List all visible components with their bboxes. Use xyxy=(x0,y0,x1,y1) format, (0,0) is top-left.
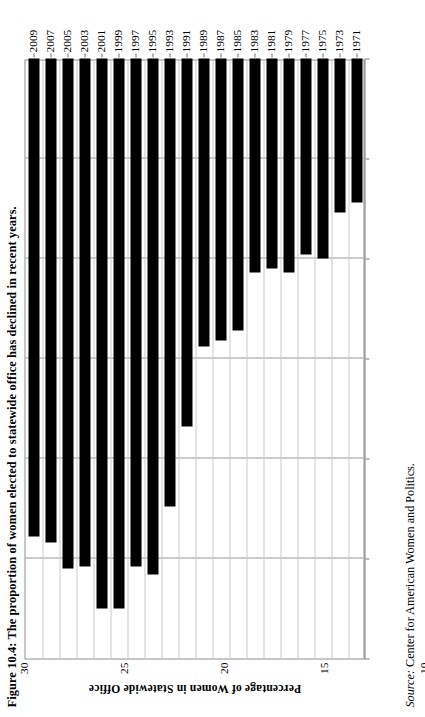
category-axis-tickmark xyxy=(186,53,187,57)
value-axis-tickmark xyxy=(365,158,369,159)
category-axis-tick-label: 1979 xyxy=(282,29,293,52)
figure-source: Source: Center for American Women and Po… xyxy=(402,7,417,707)
gridline-horizontal xyxy=(93,60,94,658)
value-axis-tickmark xyxy=(365,358,369,359)
category-axis-tickmark xyxy=(50,53,51,57)
category-axis-tickmark xyxy=(220,53,221,57)
gridline-horizontal xyxy=(42,60,43,658)
bar xyxy=(45,58,55,542)
value-axis-tickmark xyxy=(365,58,369,59)
bar xyxy=(300,58,310,254)
category-axis-tick-label: 2005 xyxy=(61,29,72,52)
bar xyxy=(28,58,38,536)
category-axis-tickmark xyxy=(305,53,306,57)
gridline-horizontal xyxy=(297,60,298,658)
value-axis-tick-label: 15 xyxy=(318,662,329,680)
bar xyxy=(79,58,89,566)
gridline-horizontal xyxy=(195,60,196,658)
category-axis-tickmark xyxy=(322,53,323,57)
gridline-horizontal xyxy=(127,60,128,658)
gridline-horizontal xyxy=(110,60,111,658)
bar xyxy=(351,58,361,202)
category-axis-tick-label: 1973 xyxy=(333,29,344,52)
category-axis-tick-label: 1975 xyxy=(316,29,327,52)
gridline-horizontal xyxy=(212,60,213,658)
category-axis-ticks: 2009200720052003200119991997199519931991… xyxy=(24,23,364,57)
gridline-horizontal xyxy=(280,60,281,658)
bar xyxy=(317,58,327,258)
category-axis-tick-label: 1999 xyxy=(112,29,123,52)
category-axis-tick-label: 1977 xyxy=(299,29,310,52)
bar xyxy=(215,58,225,340)
category-axis-tick-label: 2009 xyxy=(27,29,38,52)
category-axis-tick-label: 2001 xyxy=(95,29,106,52)
chart-plot-area: Percentage of Women in Statewide Office … xyxy=(24,23,394,695)
gridline-horizontal xyxy=(246,60,247,658)
category-axis-tickmark xyxy=(356,53,357,57)
value-axis-ticks: 051015202530 xyxy=(24,661,364,679)
figure-source-prefix: Source: xyxy=(402,670,416,707)
value-axis-tickmark xyxy=(365,658,369,659)
category-axis-tick-label: 1981 xyxy=(265,29,276,52)
category-axis-tickmark xyxy=(33,53,34,57)
figure-caption: Figure 10.4: The proportion of women ele… xyxy=(4,7,19,707)
category-axis-tick-label: 1983 xyxy=(248,29,259,52)
bar xyxy=(198,58,208,346)
value-axis-tick-label: 20 xyxy=(218,662,229,680)
gridline-horizontal xyxy=(263,60,264,658)
category-axis-tick-label: 1995 xyxy=(146,29,157,52)
value-axis-tick-label: 30 xyxy=(18,662,29,680)
category-axis-tickmark xyxy=(271,53,272,57)
category-axis-tickmark xyxy=(152,53,153,57)
gridline-horizontal xyxy=(59,60,60,658)
value-axis-tickmark xyxy=(365,558,369,559)
bar xyxy=(113,58,123,608)
gridline-horizontal xyxy=(331,60,332,658)
category-axis-tickmark xyxy=(118,53,119,57)
gridline-horizontal xyxy=(229,60,230,658)
chart-frame xyxy=(24,59,364,659)
category-axis-tick-label: 1989 xyxy=(197,29,208,52)
category-axis-tick-label: 1987 xyxy=(214,29,225,52)
category-axis-tickmark xyxy=(84,53,85,57)
value-axis-tickmark xyxy=(365,458,369,459)
gridline-horizontal xyxy=(178,60,179,658)
category-axis-tickmark xyxy=(203,53,204,57)
bar xyxy=(249,58,259,272)
value-axis-tick-label: 10 xyxy=(418,662,425,680)
figure-source-text: Center for American Women and Politics. xyxy=(402,463,416,670)
value-axis-tickmark xyxy=(365,258,369,259)
category-axis-tick-label: 2007 xyxy=(44,29,55,52)
bar xyxy=(62,58,72,568)
category-axis-tickmark xyxy=(237,53,238,57)
category-axis-tick-label: 1993 xyxy=(163,29,174,52)
category-axis-tick-label: 1991 xyxy=(180,29,191,52)
category-axis-tick-label: 1971 xyxy=(350,29,361,52)
category-axis-tick-label: 1985 xyxy=(231,29,242,52)
category-axis-tick-label: 2003 xyxy=(78,29,89,52)
bar xyxy=(334,58,344,212)
category-axis-tickmark xyxy=(169,53,170,57)
bar xyxy=(181,58,191,426)
bar xyxy=(96,58,106,608)
category-axis-tickmark xyxy=(254,53,255,57)
value-axis-title-text: Percentage of Women in Statewide Office xyxy=(88,682,300,695)
bar xyxy=(164,58,174,506)
bar xyxy=(283,58,293,272)
category-axis-tickmark xyxy=(339,53,340,57)
category-axis-tick-label: 1997 xyxy=(129,29,140,52)
category-axis-tickmark xyxy=(135,53,136,57)
bar xyxy=(147,58,157,574)
gridline-horizontal xyxy=(76,60,77,658)
category-axis-tickmark xyxy=(288,53,289,57)
gridline-horizontal xyxy=(144,60,145,658)
category-axis-tickmark xyxy=(101,53,102,57)
value-axis-title: Percentage of Women in Statewide Office xyxy=(24,681,364,695)
gridline-horizontal xyxy=(348,60,349,658)
bar xyxy=(130,58,140,566)
category-axis-tickmark xyxy=(67,53,68,57)
bar xyxy=(232,58,242,330)
figure-canvas: Figure 10.4: The proportion of women ele… xyxy=(0,0,425,717)
value-axis-tick-label: 25 xyxy=(118,662,129,680)
bar xyxy=(266,58,276,268)
